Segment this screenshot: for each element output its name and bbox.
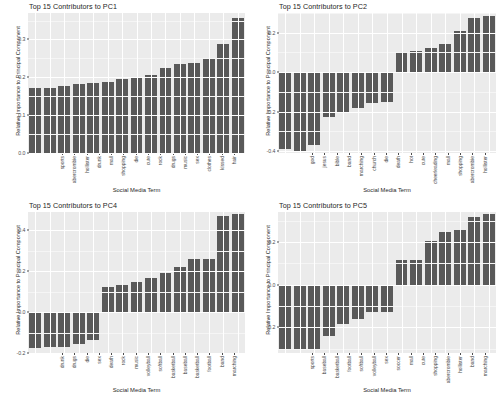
x-tick-label: basketball xyxy=(195,356,200,378)
x-tick-label: drugs xyxy=(72,356,77,368)
x-tick-label: baseball xyxy=(182,356,187,374)
x-tick-label: cheerleading xyxy=(433,156,438,184)
gridline-vertical xyxy=(180,212,181,353)
x-tick-label: church xyxy=(371,156,376,171)
x-tick-mark xyxy=(361,353,362,355)
y-tick-label: 0.2 xyxy=(268,239,278,245)
x-tick-label: football xyxy=(347,356,352,372)
x-tick-label: die xyxy=(384,156,389,163)
gridline-vertical xyxy=(223,212,224,353)
gridline-vertical xyxy=(209,13,210,153)
gridline-vertical xyxy=(180,13,181,153)
gridline-vertical xyxy=(93,13,94,153)
gridline-vertical xyxy=(50,13,51,153)
x-tick-mark xyxy=(62,353,63,355)
y-tick-label: 0.0 xyxy=(18,309,28,315)
gridline-vertical xyxy=(209,212,210,353)
x-tick-label: hair xyxy=(231,156,236,164)
gridline-vertical xyxy=(285,13,286,153)
x-tick-label: clothes xyxy=(207,156,212,172)
y-tick-label: 0.0 xyxy=(18,150,28,156)
x-tick-label: god xyxy=(310,156,315,164)
x-tick-label: death xyxy=(109,356,114,368)
x-tick-label: mall xyxy=(109,156,114,165)
panel-title-pc1: Top 15 Contributors to PC1 xyxy=(29,2,117,11)
x-tick-label: softball xyxy=(158,356,163,372)
gridline-vertical xyxy=(300,212,301,353)
gridline-vertical xyxy=(431,212,432,353)
x-tick-mark xyxy=(185,353,186,355)
panel-title-pc5: Top 15 Contributors to PC5 xyxy=(279,201,367,210)
x-axis-label-pc1: Social Media Term xyxy=(29,187,244,193)
x-tick-mark xyxy=(197,353,198,355)
panel-title-pc4: Top 15 Contributors to PC4 xyxy=(29,201,117,210)
x-tick-mark xyxy=(374,353,375,355)
panel-pc1: Top 15 Contributors to PC1 Relative Impo… xyxy=(0,0,250,199)
x-tick-mark xyxy=(312,153,313,155)
gridline-major xyxy=(28,153,245,154)
x-tick-label: sports xyxy=(310,356,315,369)
gridline-vertical xyxy=(151,13,152,153)
x-tick-label: sports xyxy=(60,156,65,169)
x-tick-label: volleyball xyxy=(371,356,376,376)
gridline-vertical xyxy=(372,212,373,353)
x-tick-mark xyxy=(435,153,436,155)
panel-pc5: Top 15 Contributors to PC5 Relative Impo… xyxy=(250,199,501,399)
gridline-vertical xyxy=(358,212,359,353)
gridline-vertical xyxy=(314,212,315,353)
x-tick-label: volleyball xyxy=(145,356,150,376)
gridline-vertical xyxy=(137,212,138,353)
x-tick-label: hollister xyxy=(482,156,487,173)
gridline-vertical xyxy=(343,13,344,153)
gridline-vertical xyxy=(460,212,461,353)
x-tick-label: shopping xyxy=(121,156,126,176)
x-tick-label: sex xyxy=(195,156,200,164)
x-tick-label: cute xyxy=(421,356,426,365)
x-tick-mark xyxy=(111,353,112,355)
gridline-vertical xyxy=(79,212,80,353)
x-tick-mark xyxy=(423,353,424,355)
x-tick-mark xyxy=(324,153,325,155)
plot-area-pc4: drunkdrugsdiesexdeathrockmusicvolleyball… xyxy=(28,212,245,353)
y-tick-label: -0.2 xyxy=(267,324,278,330)
plot-area-pc5: sportsbaseballbasketballfootballsoftball… xyxy=(278,212,496,353)
gridline-vertical xyxy=(489,13,490,153)
x-tick-mark xyxy=(349,353,350,355)
x-axis-label-pc4: Social Media Term xyxy=(29,387,244,393)
x-axis-label-pc5: Social Media Term xyxy=(279,387,495,393)
gridline-vertical xyxy=(64,212,65,353)
gridline-vertical xyxy=(329,13,330,153)
gridline-vertical xyxy=(108,13,109,153)
x-tick-mark xyxy=(485,353,486,355)
panel-pc4: Top 15 Contributors to PC4 Relative Impo… xyxy=(0,199,250,399)
gridline-vertical xyxy=(343,212,344,353)
x-tick-label: drunk xyxy=(60,356,65,368)
gridline-vertical xyxy=(445,13,446,153)
gridline-vertical xyxy=(474,212,475,353)
x-tick-label: abercrombie xyxy=(72,156,77,183)
x-tick-label: hot xyxy=(408,156,413,163)
gridline-vertical xyxy=(151,212,152,353)
x-tick-mark xyxy=(411,153,412,155)
x-tick-label: football xyxy=(207,356,212,372)
x-tick-label: band xyxy=(347,156,352,167)
gridline-vertical xyxy=(460,13,461,153)
gridline-vertical xyxy=(122,13,123,153)
x-tick-label: band xyxy=(219,356,224,367)
gridline-vertical xyxy=(416,212,417,353)
gridline-vertical xyxy=(108,212,109,353)
x-tick-mark xyxy=(74,353,75,355)
x-tick-mark xyxy=(398,353,399,355)
plot-area-pc2: godjesusbiblebandmarchingchurchdiedeathh… xyxy=(278,13,496,153)
x-tick-label: soccer xyxy=(396,356,401,370)
x-tick-mark xyxy=(173,353,174,355)
x-tick-mark xyxy=(398,153,399,155)
gridline-vertical xyxy=(79,13,80,153)
x-tick-label: hollister xyxy=(84,156,89,173)
x-tick-label: marching xyxy=(231,356,236,376)
x-tick-mark xyxy=(472,153,473,155)
x-tick-label: mall xyxy=(445,156,450,165)
gridline-vertical xyxy=(35,13,36,153)
x-tick-label: jesus xyxy=(322,156,327,167)
gridline-vertical xyxy=(489,212,490,353)
